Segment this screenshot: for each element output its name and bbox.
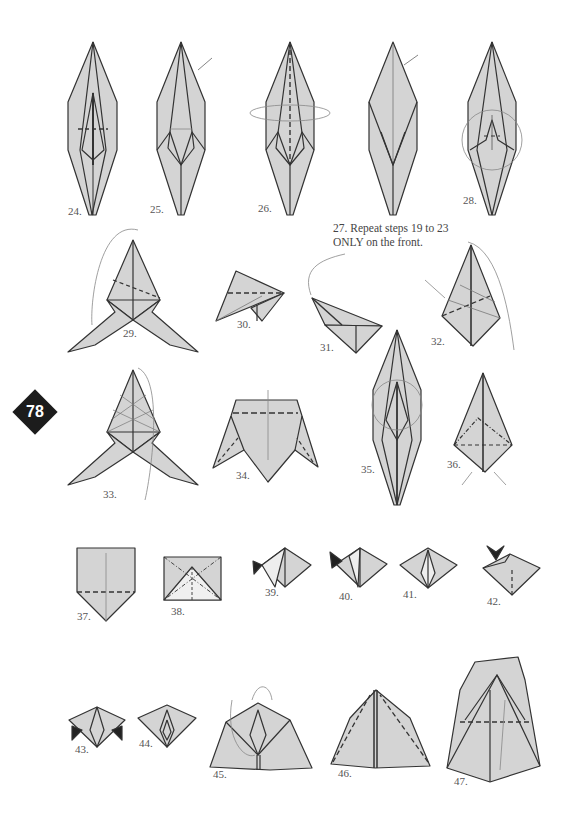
step-label-40: 40. — [339, 591, 353, 602]
step-27-note-line2: ONLY on the front. — [333, 235, 449, 249]
diagram-step-45 — [210, 687, 312, 770]
origami-instruction-page: 24. 25. 26. 28. 29. 30. 31. 32. 33. 34. … — [0, 0, 570, 817]
step-label-33: 33. — [103, 489, 117, 500]
step-27-note-line1: 27. Repeat steps 19 to 23 — [333, 221, 449, 235]
step-27-note: 27. Repeat steps 19 to 23 ONLY on the fr… — [333, 221, 449, 249]
origami-diagrams — [0, 0, 570, 817]
page-number-badge: 78 — [13, 390, 57, 434]
diagram-step-34 — [213, 390, 318, 482]
diagram-step-40 — [330, 548, 387, 587]
diagram-step-35 — [372, 330, 422, 505]
step-label-34: 34. — [236, 470, 250, 481]
diagram-step-25 — [157, 42, 212, 215]
step-label-38: 38. — [171, 606, 185, 617]
step-label-41: 41. — [403, 589, 417, 600]
step-label-45: 45. — [213, 769, 227, 780]
diagram-step-46 — [331, 690, 430, 768]
step-label-44: 44. — [139, 738, 153, 749]
step-label-26: 26. — [258, 203, 272, 214]
step-label-32: 32. — [431, 336, 445, 347]
diagram-step-24 — [68, 42, 117, 215]
diagram-step-32 — [425, 242, 514, 350]
diagram-step-41 — [400, 548, 457, 588]
step-label-46: 46. — [338, 768, 352, 779]
step-label-39: 39. — [265, 587, 279, 598]
diagram-step-31 — [308, 254, 382, 353]
step-label-31: 31. — [320, 342, 334, 353]
diagram-step-27 — [369, 42, 418, 215]
step-label-37: 37. — [77, 611, 91, 622]
step-label-24: 24. — [68, 206, 82, 217]
diagram-step-28 — [462, 42, 522, 215]
step-label-25: 25. — [150, 204, 164, 215]
diagram-step-42 — [483, 546, 540, 595]
step-label-47: 47. — [454, 776, 468, 787]
diagram-step-30 — [216, 271, 284, 321]
step-label-29: 29. — [123, 328, 137, 339]
diagram-step-26 — [250, 42, 330, 215]
step-label-30: 30. — [237, 319, 251, 330]
step-label-35: 35. — [361, 464, 375, 475]
page-number: 78 — [13, 403, 57, 421]
diagram-step-39 — [253, 548, 311, 587]
step-label-43: 43. — [75, 744, 89, 755]
step-label-36: 36. — [447, 459, 461, 470]
diagram-step-38 — [164, 557, 221, 600]
step-label-28: 28. — [463, 195, 477, 206]
diagram-step-36 — [454, 373, 512, 485]
diagram-step-47 — [447, 657, 540, 782]
diagram-step-43 — [69, 707, 125, 747]
step-label-42: 42. — [487, 596, 501, 607]
diagram-step-33 — [68, 368, 198, 500]
